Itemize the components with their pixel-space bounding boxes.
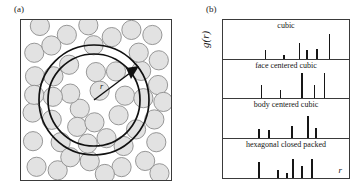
subpanel-hcp-spikes — [223, 139, 349, 179]
spike — [280, 90, 282, 98]
spike — [301, 73, 303, 98]
spike — [292, 159, 294, 178]
spike — [316, 49, 318, 59]
panel-a-label: (a) — [14, 4, 24, 14]
spike — [277, 170, 279, 178]
panel-a-r-annotation: r — [100, 82, 104, 91]
spike — [258, 162, 260, 178]
subpanel-cubic: cubic — [223, 20, 349, 60]
subpanel-fcc: face centered cubic — [223, 60, 349, 100]
panel-a-packing-diagram: r — [20, 19, 172, 181]
spike — [261, 85, 263, 98]
spike — [306, 50, 308, 59]
spike — [314, 85, 316, 98]
spike — [268, 130, 270, 138]
spike — [324, 73, 326, 98]
spike — [291, 126, 293, 137]
subpanel-bcc: body centered cubic — [223, 99, 349, 139]
spike — [299, 43, 301, 59]
spike — [311, 159, 313, 178]
spike — [307, 116, 309, 138]
spike — [301, 166, 303, 178]
panel-b-gofr-chart: cubic face centered cubic body centered … — [222, 19, 350, 179]
panel-b-label: (b) — [206, 4, 217, 14]
subpanel-cubic-spikes — [223, 20, 349, 59]
figure-root: (a) (b) r g(r) cubic face centered cubic… — [0, 0, 360, 186]
spike — [265, 50, 267, 59]
subpanel-fcc-spikes — [223, 60, 349, 99]
y-axis-label: g(r) — [199, 31, 211, 48]
subpanel-bcc-spikes — [223, 99, 349, 138]
spike — [329, 34, 331, 59]
subpanel-hcp: hexagonal closed packed r — [223, 139, 349, 179]
spike — [286, 173, 288, 178]
spike — [283, 55, 285, 59]
x-axis-label: r — [338, 165, 342, 175]
spike — [315, 128, 317, 138]
spike — [258, 129, 260, 138]
radial-shell-rings: r — [21, 20, 171, 180]
